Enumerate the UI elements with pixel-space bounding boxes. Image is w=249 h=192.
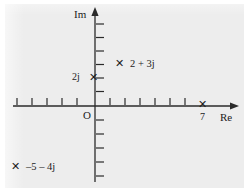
real-axis-label: Re xyxy=(220,112,232,123)
argand-diagram-figure: Im Re O 2j 7 ✕ 2 + 3j ✕ ✕ ✕ –5 – 4j xyxy=(0,0,249,192)
imaginary-axis-label: Im xyxy=(74,9,86,20)
marker-minus5-minus4j: ✕ xyxy=(11,161,20,172)
tick-label-7: 7 xyxy=(200,112,205,122)
point-label-minus5-minus4j: –5 – 4j xyxy=(26,162,55,173)
marker-2-plus-3j: ✕ xyxy=(115,58,124,69)
imaginary-axis xyxy=(91,7,104,182)
tick-label-2j: 2j xyxy=(72,72,80,82)
marker-2j: ✕ xyxy=(89,72,98,83)
origin-label: O xyxy=(83,110,91,121)
marker-7: ✕ xyxy=(198,99,207,110)
point-label-2-plus-3j: 2 + 3j xyxy=(130,59,155,70)
